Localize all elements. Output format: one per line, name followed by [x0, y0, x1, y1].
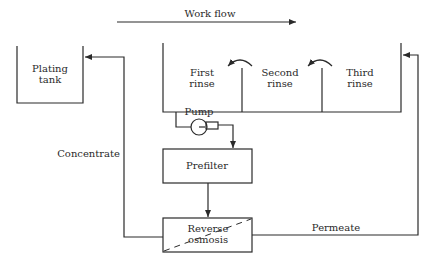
plating-tank: Plating tank	[17, 46, 83, 103]
prefilter-label: Prefilter	[186, 160, 228, 171]
second-rinse-label-line2: rinse	[267, 78, 293, 89]
reverse-osmosis-label-line1: Reverse	[188, 223, 229, 234]
permeate-label: Permeate	[312, 222, 360, 233]
rinse-tank: First rinse Second rinse Third rinse	[163, 43, 401, 112]
reverse-osmosis-unit: Reverse osmosis	[163, 218, 252, 252]
concentrate-line: Concentrate	[57, 57, 163, 237]
third-rinse-label-line1: Third	[346, 67, 374, 78]
reverse-osmosis-rinse-recovery-diagram: Work flow Plating tank First rinse Secon…	[0, 0, 431, 264]
concentrate-label: Concentrate	[57, 148, 120, 159]
workflow-label: Work flow	[185, 8, 236, 19]
workflow-arrow: Work flow	[117, 8, 296, 22]
prefilter: Prefilter	[163, 149, 252, 217]
pump-label: Pump	[184, 106, 213, 117]
plating-tank-label-line1: Plating	[32, 63, 69, 74]
overflow-arrow-icon	[228, 60, 252, 66]
first-rinse-label-line2: rinse	[189, 78, 215, 89]
first-rinse-label-line1: First	[190, 67, 214, 78]
second-rinse-label-line1: Second	[261, 67, 299, 78]
overflow-arrow-icon	[308, 60, 332, 66]
plating-tank-label-line2: tank	[39, 74, 62, 85]
third-rinse-label-line2: rinse	[347, 78, 373, 89]
reverse-osmosis-label-line2: osmosis	[188, 234, 228, 245]
